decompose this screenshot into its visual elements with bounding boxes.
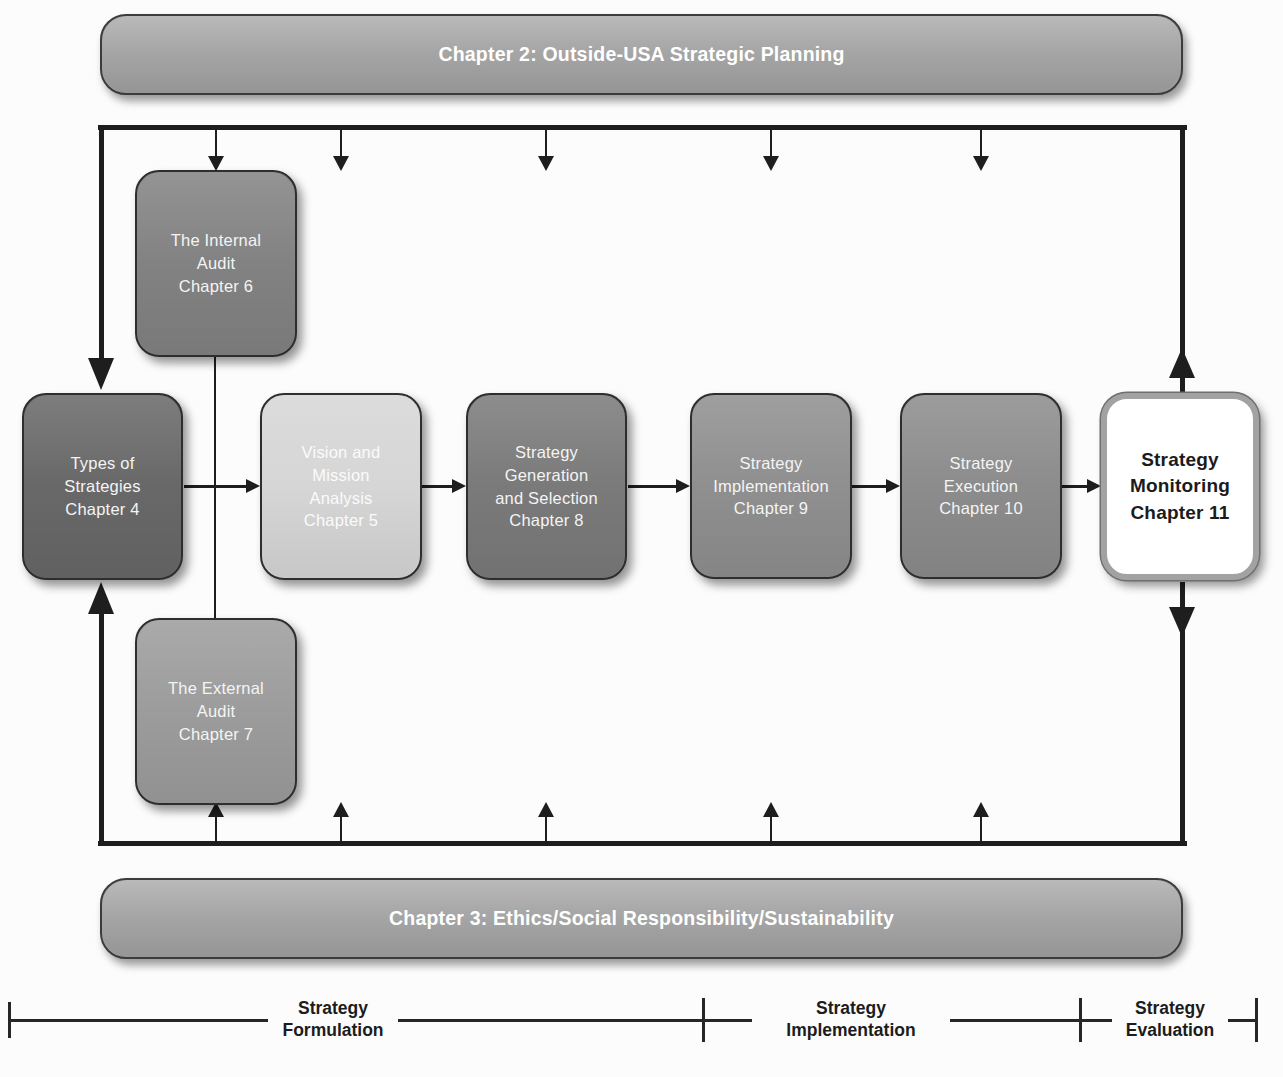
flow-line-generation-implementation xyxy=(628,485,677,488)
phase-tick-mid-1 xyxy=(702,998,705,1042)
bottom-rise-line-5 xyxy=(980,815,982,843)
audit-vertical-connector xyxy=(214,357,216,618)
box-vision-mission-analysis: Vision and Mission Analysis Chapter 5 xyxy=(260,393,422,580)
box-internal-audit: The Internal Audit Chapter 6 xyxy=(135,170,297,357)
box-strategy-monitoring-label: Strategy Monitoring Chapter 11 xyxy=(1130,447,1230,526)
bottom-rise-line-2 xyxy=(340,815,342,843)
top-drop-line-3 xyxy=(545,128,547,158)
arrow-up-into-types-icon xyxy=(88,582,114,614)
flow-arrow-execution-monitoring-icon xyxy=(1087,479,1101,493)
box-strategy-execution: Strategy Execution Chapter 10 xyxy=(900,393,1062,579)
phase-seg-2 xyxy=(398,1019,752,1022)
top-drop-line-2 xyxy=(340,128,342,158)
arrow-down-from-monitoring-icon xyxy=(1169,607,1195,637)
flow-arrow-types-vision-icon xyxy=(246,479,260,493)
box-external-audit: The External Audit Chapter 7 xyxy=(135,618,297,805)
arrow-down-into-types-icon xyxy=(88,358,114,390)
phase-label-implementation: Strategy Implementation xyxy=(751,997,951,1042)
box-internal-audit-label: The Internal Audit Chapter 6 xyxy=(171,229,261,297)
box-strategy-implementation: Strategy Implementation Chapter 9 xyxy=(690,393,852,579)
top-banner-label: Chapter 2: Outside-USA Strategic Plannin… xyxy=(438,43,844,66)
arrow-up-from-monitoring-icon xyxy=(1169,348,1195,378)
feedback-left-upper-line xyxy=(99,125,104,358)
top-drop-arrow-5-icon xyxy=(973,156,989,171)
top-banner: Chapter 2: Outside-USA Strategic Plannin… xyxy=(100,14,1183,95)
flow-line-execution-monitoring xyxy=(1062,485,1088,488)
box-strategy-implementation-label: Strategy Implementation Chapter 9 xyxy=(713,452,829,520)
top-drop-arrow-1-icon xyxy=(208,156,224,171)
box-strategy-monitoring: Strategy Monitoring Chapter 11 xyxy=(1101,393,1259,580)
top-drop-arrow-4-icon xyxy=(763,156,779,171)
phase-seg-1 xyxy=(8,1019,268,1022)
phase-seg-4 xyxy=(1228,1019,1258,1022)
bottom-banner: Chapter 3: Ethics/Social Responsibility/… xyxy=(100,878,1183,959)
top-drop-arrow-2-icon xyxy=(333,156,349,171)
top-drop-line-4 xyxy=(770,128,772,158)
feedback-left-lower-line xyxy=(99,612,104,844)
strategic-management-model-diagram: Chapter 2: Outside-USA Strategic Plannin… xyxy=(0,0,1283,1077)
box-vision-mission-analysis-label: Vision and Mission Analysis Chapter 5 xyxy=(302,441,381,532)
top-drop-arrow-3-icon xyxy=(538,156,554,171)
flow-line-implementation-execution xyxy=(852,485,887,488)
top-drop-line-5 xyxy=(980,128,982,158)
bottom-banner-label: Chapter 3: Ethics/Social Responsibility/… xyxy=(389,907,894,930)
flow-arrow-generation-implementation-icon xyxy=(676,479,690,493)
phase-tick-right xyxy=(1255,998,1258,1042)
box-external-audit-label: The External Audit Chapter 7 xyxy=(168,677,264,745)
flow-line-vision-generation xyxy=(422,485,453,488)
top-drop-line-1 xyxy=(215,128,217,158)
box-types-of-strategies-label: Types of Strategies Chapter 4 xyxy=(64,452,140,520)
flow-arrow-vision-generation-icon xyxy=(452,479,466,493)
box-types-of-strategies: Types of Strategies Chapter 4 xyxy=(22,393,183,580)
box-strategy-execution-label: Strategy Execution Chapter 10 xyxy=(939,452,1023,520)
bottom-rise-line-3 xyxy=(545,815,547,843)
box-strategy-generation-selection: Strategy Generation and Selection Chapte… xyxy=(466,393,627,580)
flow-arrow-implementation-execution-icon xyxy=(886,479,900,493)
box-strategy-generation-selection-label: Strategy Generation and Selection Chapte… xyxy=(495,441,598,532)
flow-line-types-vision xyxy=(184,485,247,488)
bottom-rise-line-1 xyxy=(215,815,217,843)
feedback-rail-bottom xyxy=(98,841,1187,846)
feedback-rail-top xyxy=(98,125,1187,130)
bottom-rise-line-4 xyxy=(770,815,772,843)
